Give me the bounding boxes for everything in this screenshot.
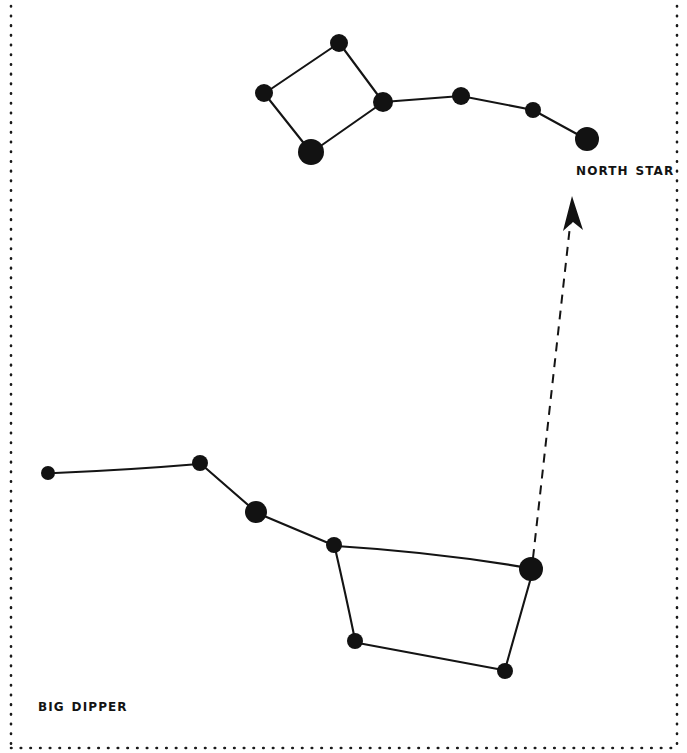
star-bd-handle-in bbox=[245, 501, 267, 523]
little-dipper-lines bbox=[264, 43, 586, 152]
arrowhead-icon bbox=[563, 196, 583, 231]
star-bd-bowl-tl bbox=[326, 537, 342, 553]
pointer-dashed-line bbox=[533, 208, 572, 558]
star-ld-bowl-right bbox=[373, 92, 393, 112]
star-chart-canvas bbox=[0, 0, 687, 753]
star-bd-bowl-tr bbox=[519, 557, 543, 581]
star-bd-bowl-bl bbox=[347, 633, 363, 649]
star-ld-bowl-bottomleft bbox=[298, 139, 324, 165]
dotted-page-border bbox=[11, 6, 677, 748]
star-ld-bowl-left bbox=[255, 84, 273, 102]
star-north-star bbox=[575, 127, 599, 151]
star-ld-handle-2 bbox=[525, 102, 541, 118]
star-ld-handle-1 bbox=[452, 87, 470, 105]
star-chart-page: North Star Big Dipper bbox=[0, 0, 687, 753]
star-bd-handle-end bbox=[41, 466, 55, 480]
label-north-star: North Star bbox=[576, 160, 674, 179]
big-dipper-lines bbox=[55, 464, 530, 670]
star-bd-bowl-br bbox=[497, 663, 513, 679]
label-big-dipper: Big Dipper bbox=[38, 696, 128, 715]
star-bd-handle-mid bbox=[192, 455, 208, 471]
big-dipper-stars bbox=[41, 455, 543, 679]
star-ld-bowl-top bbox=[330, 34, 348, 52]
pointer-arrow-to-north-star bbox=[533, 196, 583, 558]
